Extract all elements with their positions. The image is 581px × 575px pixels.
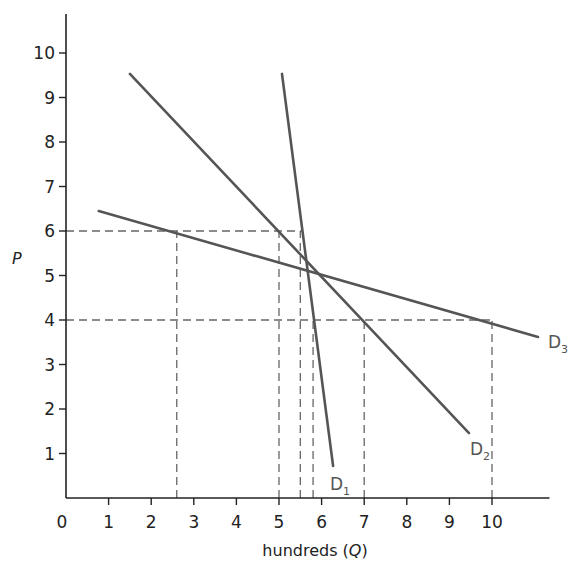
x-tick-label: 6: [316, 512, 327, 532]
curve-label-d2: D2: [470, 439, 490, 463]
x-tick-label: 2: [146, 512, 157, 532]
y-tick-label: 6: [44, 221, 55, 241]
x-tick-label: 0: [57, 512, 68, 532]
y-tick-label: 10: [33, 43, 55, 63]
x-axis-title: hundreds (Q): [262, 541, 367, 560]
y-tick-label: 2: [44, 399, 55, 419]
x-tick-label: 10: [481, 512, 503, 532]
y-tick-label: 1: [44, 444, 55, 464]
y-axis-title: P: [12, 249, 22, 268]
curve-label-d1: D1: [330, 474, 350, 498]
y-tick-label: 4: [44, 310, 55, 330]
x-tick-label: 3: [188, 512, 199, 532]
curve-label-d3: D3: [548, 332, 568, 356]
demand-curves: [99, 74, 538, 466]
x-tick-label: 9: [444, 512, 455, 532]
y-tick-label: 3: [44, 355, 55, 375]
x-tick-label: 8: [401, 512, 412, 532]
y-tick-label: 9: [44, 88, 55, 108]
curve-d2: [130, 74, 469, 433]
x-tick-label: 5: [274, 512, 285, 532]
axis-labels: 12345678910012345678910hundreds (Q)PD1D2…: [12, 43, 568, 560]
reference-dashed-lines: [66, 231, 492, 498]
curve-d3: [99, 211, 538, 337]
x-tick-label: 1: [103, 512, 114, 532]
y-tick-label: 8: [44, 132, 55, 152]
x-tick-label: 7: [359, 512, 370, 532]
demand-chart: 12345678910012345678910hundreds (Q)PD1D2…: [0, 0, 581, 575]
y-tick-label: 5: [44, 266, 55, 286]
x-tick-label: 4: [231, 512, 242, 532]
y-tick-label: 7: [44, 177, 55, 197]
